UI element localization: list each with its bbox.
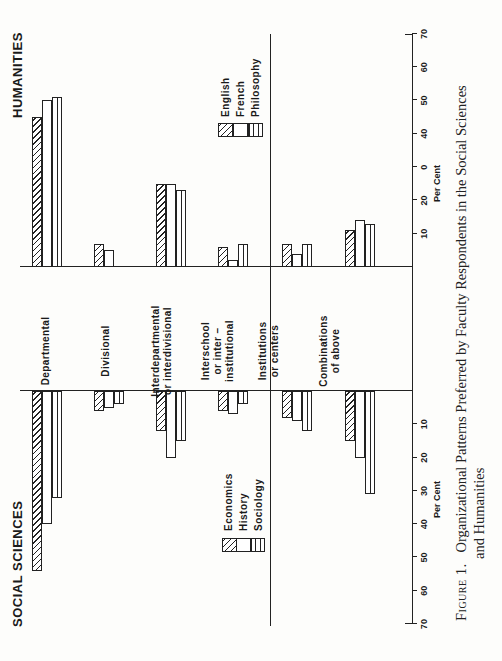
bar-social-sciences-sociology-4: [302, 391, 312, 431]
bar-humanities-english-0: [32, 117, 42, 267]
social-tick: [412, 590, 417, 591]
bar-humanities-english-4: [282, 244, 292, 267]
humanities-tick: [412, 33, 417, 34]
legend-label-french: French: [235, 81, 246, 117]
category-label-interschool: Interschool or inter – institutional: [200, 296, 236, 406]
legend-swatch-philosophy: [248, 123, 263, 137]
social-tick: [412, 523, 417, 524]
humanities-axis-end: [405, 34, 412, 35]
social-tick: [412, 423, 417, 424]
bar-social-sciences-sociology-1: [114, 391, 124, 404]
humanities-baseline: [20, 266, 412, 267]
humanities-tick-label: 40: [419, 124, 429, 144]
social-tick-label: 60: [419, 581, 429, 601]
bar-humanities-english-3: [218, 247, 228, 267]
bar-humanities-french-5: [355, 220, 365, 267]
bar-social-sciences-sociology-5: [365, 391, 375, 494]
x-axis-line: [412, 34, 413, 624]
social-tick-label: 70: [419, 614, 429, 634]
bar-humanities-philosophy-2: [176, 190, 186, 267]
bar-social-sciences-economics-5: [345, 391, 355, 441]
category-label-departmental: Departmental: [40, 296, 52, 406]
caption-line-1: Organizational Patterns Preferred by Fac…: [453, 85, 469, 552]
figure-caption: Figure 1. Organizational Patterns Prefer…: [452, 1, 488, 621]
humanities-tick-label: 10: [419, 224, 429, 244]
bar-humanities-french-2: [166, 184, 176, 267]
legend-label-sociology: Sociology: [253, 479, 264, 531]
category-label-interdepartmental: Interdepartmental or interdivisional: [150, 296, 174, 406]
bar-humanities-philosophy-0: [52, 97, 62, 267]
category-label-divisional: Divisional: [100, 296, 112, 406]
social-tick-label: 20: [419, 448, 429, 468]
bar-social-sciences-sociology-3: [238, 391, 248, 404]
bar-humanities-english-1: [94, 244, 104, 267]
social-tick: [412, 457, 417, 458]
bar-humanities-english-5: [345, 230, 355, 267]
social-axis-end: [405, 623, 412, 624]
humanities-tick-label: 50: [419, 91, 429, 111]
social-tick: [412, 623, 417, 624]
bar-humanities-philosophy-3: [238, 244, 248, 267]
humanities-tick-label: 70: [419, 24, 429, 44]
humanities-tick: [412, 66, 417, 67]
caption-line-2: and Humanities: [470, 1, 488, 621]
social-tick: [412, 490, 417, 491]
legend-swatch-french: [233, 123, 248, 137]
social-tick-label: 50: [419, 548, 429, 568]
bar-humanities-french-1: [104, 250, 114, 267]
humanities-tick-label: 60: [419, 57, 429, 77]
bar-humanities-english-2: [156, 184, 166, 267]
bar-social-sciences-economics-4: [282, 391, 292, 418]
humanities-title: HUMANITIES: [10, 32, 25, 118]
bar-social-sciences-economics-0: [32, 391, 42, 571]
social-tick-label: 10: [419, 414, 429, 434]
humanities-tick: [412, 166, 417, 167]
category-label-institutions: Institutions or centers: [257, 296, 281, 406]
humanities-tick: [412, 100, 417, 101]
category-label-combinations: Combinations of above: [318, 296, 342, 406]
social-tick-label: 30: [419, 481, 429, 501]
figure-page: SOCIAL SCIENCES HUMANITIES Departmental …: [0, 0, 502, 661]
bar-humanities-philosophy-4: [302, 244, 312, 267]
social-axis-title: Per Cent: [432, 481, 442, 518]
humanities-tick: [412, 133, 417, 134]
humanities-tick-label: 20: [419, 190, 429, 210]
bar-social-sciences-sociology-0: [52, 391, 62, 498]
legend-label-economics: Economics: [223, 473, 234, 531]
social-tick-label: 40: [419, 514, 429, 534]
bar-humanities-french-0: [42, 101, 52, 268]
bar-humanities-philosophy-5: [365, 224, 375, 267]
humanities-tick: [412, 233, 417, 234]
social-sciences-title: SOCIAL SCIENCES: [10, 501, 25, 627]
bar-humanities-french-4: [292, 254, 302, 267]
legend-swatch-english: [218, 123, 233, 137]
bar-social-sciences-history-4: [292, 391, 302, 421]
legend-swatch-economics: [222, 538, 237, 552]
legend-swatch-sociology: [250, 538, 265, 552]
humanities-tick: [412, 199, 417, 200]
bar-social-sciences-history-0: [42, 391, 52, 524]
legend-label-history: History: [238, 493, 249, 531]
humanities-tick-label: 0: [419, 157, 429, 177]
social-tick: [412, 557, 417, 558]
caption-label: Figure 1.: [453, 563, 469, 621]
legend-label-philosophy: Philosophy: [250, 58, 261, 117]
bar-social-sciences-sociology-2: [176, 391, 186, 441]
bar-social-sciences-history-5: [355, 391, 365, 458]
humanities-axis-title: Per Cent: [432, 165, 442, 202]
legend-label-english: English: [220, 77, 231, 117]
legend-swatch-history: [236, 538, 251, 552]
